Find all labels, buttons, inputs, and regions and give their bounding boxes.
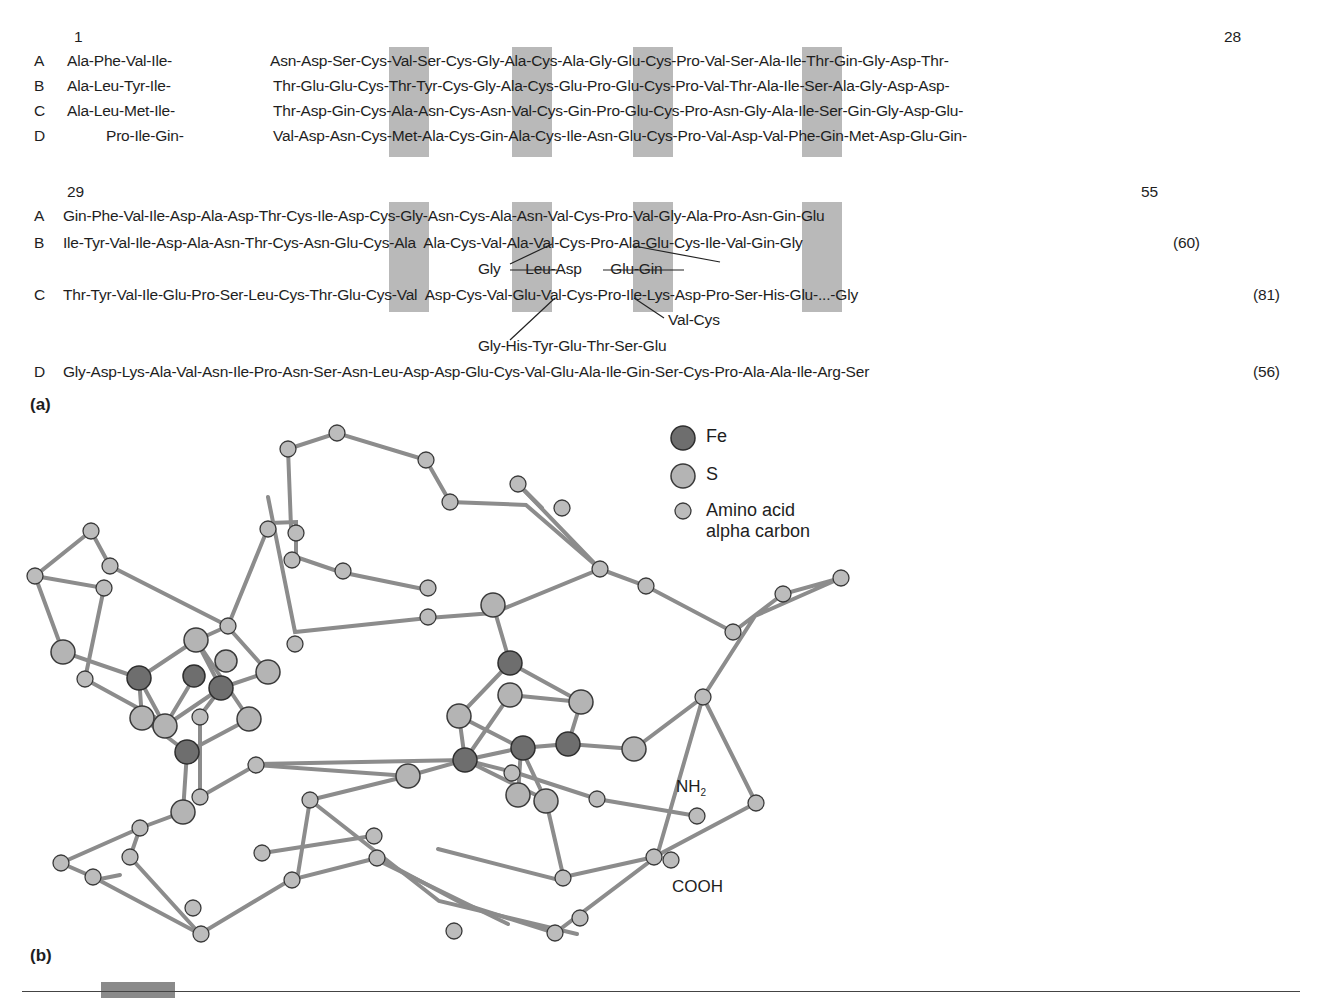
ferredoxin-backbone-diagram [0, 0, 1323, 998]
fe-legend-icon [671, 426, 695, 450]
alpha-carbon-legend-icon [675, 503, 691, 519]
panel-label-b: (b) [30, 946, 52, 966]
s-legend-icon [671, 464, 695, 488]
footer-tab-marker [101, 982, 175, 998]
n-terminus-label: NH2 [676, 777, 706, 798]
legend-alpha-carbon-label-2: alpha carbon [706, 521, 810, 542]
footer-rule [22, 991, 1300, 992]
legend-alpha-carbon-label-1: Amino acid [706, 500, 795, 521]
c-terminus-label: COOH [672, 877, 723, 897]
legend-fe-label: Fe [706, 426, 727, 447]
legend-s-label: S [706, 464, 718, 485]
legend-symbols [671, 426, 695, 519]
